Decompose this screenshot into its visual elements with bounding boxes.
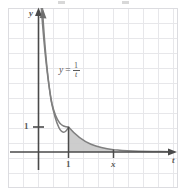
y-tick-label-1: 1 xyxy=(24,122,29,131)
equation-relation: = xyxy=(65,66,70,76)
x-axis-label: t xyxy=(172,156,175,165)
equation-fraction: 1 t xyxy=(73,62,80,79)
equation-lhs: y xyxy=(59,66,63,76)
fraction-denominator: t xyxy=(74,71,78,79)
figure-area-under-curve: y t 1 1 x y = 1 t xyxy=(0,0,186,196)
curve-equation-label: y = 1 t xyxy=(59,62,80,79)
grid-lines xyxy=(8,8,178,188)
y-axis-label: y xyxy=(29,9,33,18)
x-tick-label-x: x xyxy=(111,160,116,169)
x-tick-label-1: 1 xyxy=(66,160,71,169)
plot-canvas xyxy=(0,0,186,196)
fraction-numerator: 1 xyxy=(73,62,79,70)
